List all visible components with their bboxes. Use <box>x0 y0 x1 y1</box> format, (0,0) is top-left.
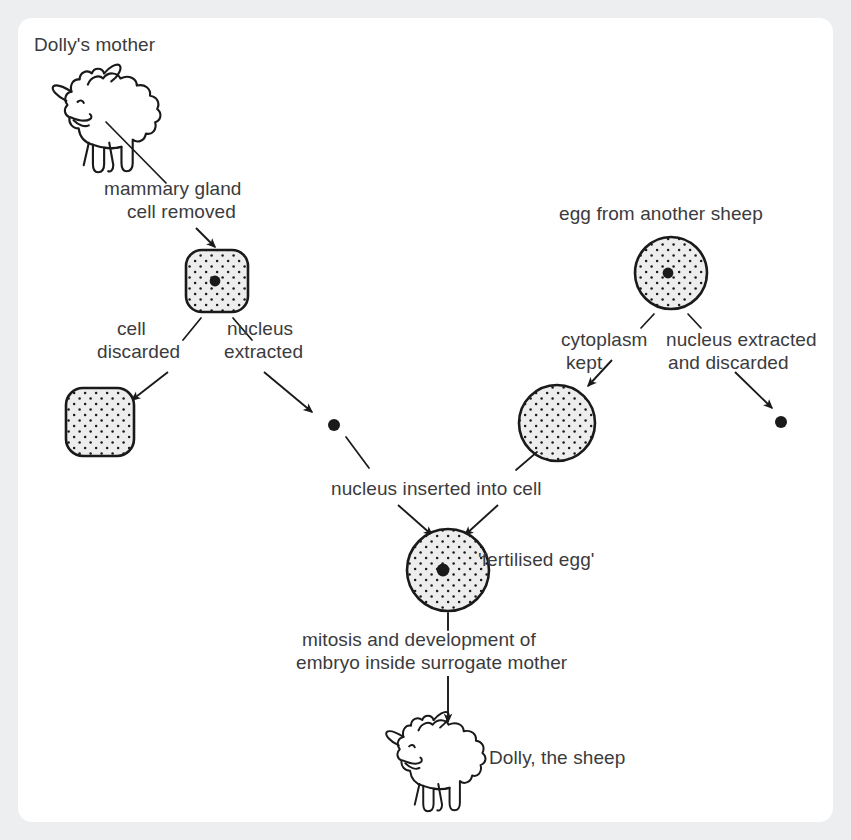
label-cytoplasm-kept-line1: cytoplasm <box>561 328 647 351</box>
arrow-nucleus-extracted <box>264 372 312 412</box>
label-mitosis-line2: embryo inside surrogate mother <box>296 651 567 674</box>
arrow-insert-right <box>465 505 498 535</box>
label-nucleus-extracted-line1: nucleus <box>227 317 293 340</box>
donor-egg-nucleus <box>663 268 674 279</box>
insert-tick-left <box>346 437 369 468</box>
label-mammary-gland-line1: mammary gland <box>104 177 242 200</box>
mother-sheep-drawing <box>53 65 161 173</box>
cell-discarded-tick <box>183 318 201 340</box>
arrow-to-mammary-cell <box>196 228 215 247</box>
arrow-nucleus-discarded <box>735 372 772 408</box>
label-mitosis-line1: mitosis and development of <box>302 628 536 651</box>
fertilised-egg-cell <box>407 529 489 611</box>
arrow-cell-discarded <box>132 372 168 400</box>
insert-tick-right <box>516 452 537 470</box>
discarded-cell <box>66 388 134 456</box>
cytoplasm-cell <box>519 385 595 461</box>
nucleus-discarded-tick <box>688 314 701 328</box>
mammary-gland-pointer-line <box>106 122 166 183</box>
mammary-cell <box>186 250 248 312</box>
label-dollys-mother: Dolly's mother <box>34 33 155 56</box>
diagram-page: Dolly's mother mammary gland cell remove… <box>0 0 851 840</box>
fertilised-egg-nucleus <box>437 564 450 577</box>
donor-egg-cell <box>635 237 707 309</box>
extracted-nucleus-dot <box>328 419 340 431</box>
label-mammary-gland-line2: cell removed <box>127 200 236 223</box>
label-fertilised-egg: 'fertilised egg' <box>478 548 595 571</box>
arrow-insert-left <box>398 505 432 535</box>
label-nucleus-inserted: nucleus inserted into cell <box>331 477 542 500</box>
label-egg-from-another-sheep: egg from another sheep <box>559 202 763 225</box>
label-dolly-the-sheep: Dolly, the sheep <box>489 746 625 769</box>
label-nucleus-discarded-line2: and discarded <box>668 351 789 374</box>
mammary-cell-nucleus <box>210 276 221 287</box>
label-cytoplasm-kept-line2: kept <box>566 351 602 374</box>
label-nucleus-extracted-line2: extracted <box>224 340 303 363</box>
label-cell-discarded-line2: discarded <box>97 340 180 363</box>
dolly-sheep-drawing <box>386 712 485 811</box>
cytoplasm-kept-tick <box>641 314 654 328</box>
label-nucleus-discarded-line1: nucleus extracted <box>666 328 817 351</box>
diagram-canvas <box>0 0 851 840</box>
label-cell-discarded-line1: cell <box>117 317 146 340</box>
discarded-nucleus-dot <box>775 416 787 428</box>
